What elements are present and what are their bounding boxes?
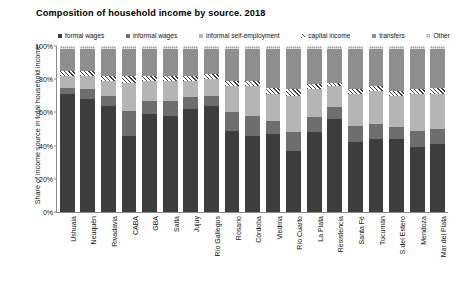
- x-axis-tick-label: Resistencia: [337, 216, 344, 252]
- bar-segment: [101, 106, 116, 212]
- x-axis-tick-label: CABA: [132, 216, 139, 235]
- bar-segment: [163, 116, 178, 212]
- y-axis-tick-mark: [54, 79, 57, 80]
- bar-segment: [286, 96, 301, 133]
- bar-column[interactable]: [307, 46, 322, 212]
- legend-item[interactable]: formal wages: [58, 33, 104, 40]
- bar-stack: [80, 46, 95, 212]
- bar-stack: [410, 46, 425, 212]
- bar-segment: [225, 131, 240, 212]
- bar-column[interactable]: [80, 46, 95, 212]
- bar-column[interactable]: [101, 46, 116, 212]
- bar-column[interactable]: [389, 46, 404, 212]
- legend-swatch-icon: [58, 34, 62, 38]
- bar-segment: [307, 117, 322, 132]
- legend-item[interactable]: Other: [426, 33, 450, 40]
- bar-column[interactable]: [410, 46, 425, 212]
- bar-segment: [101, 49, 116, 76]
- bar-segment: [430, 129, 445, 144]
- bar-segment: [430, 49, 445, 87]
- legend-item[interactable]: informal self-employment: [199, 33, 280, 40]
- bar-column[interactable]: [245, 46, 260, 212]
- bar-segment: [348, 49, 363, 89]
- bar-segment: [80, 89, 95, 99]
- bar-column[interactable]: [183, 46, 198, 212]
- bar-segment: [142, 114, 157, 212]
- bar-segment: [60, 94, 75, 212]
- y-axis-tick-mark: [54, 145, 57, 146]
- legend-item[interactable]: transfers: [372, 33, 405, 40]
- bar-segment: [266, 94, 281, 121]
- bar-segment: [266, 134, 281, 212]
- bar-stack: [389, 46, 404, 212]
- bar-column[interactable]: [430, 46, 445, 212]
- x-axis-tick-label: Mar del Plata: [440, 216, 447, 257]
- bar-segment: [142, 81, 157, 101]
- x-axis-tick-label: GBA: [152, 216, 159, 231]
- y-axis-tick-mark: [54, 112, 57, 113]
- x-axis-tick-label: Rivadavia: [111, 216, 118, 247]
- bar-segment: [266, 121, 281, 134]
- bar-column[interactable]: [266, 46, 281, 212]
- bar-column[interactable]: [142, 46, 157, 212]
- bar-segment: [327, 107, 342, 119]
- bar-column[interactable]: [369, 46, 384, 212]
- bar-column[interactable]: [327, 46, 342, 212]
- legend-label: transfers: [379, 33, 405, 40]
- bar-column[interactable]: [286, 46, 301, 212]
- y-axis-title: Share of income source in total househol…: [33, 25, 42, 225]
- bar-stack: [266, 46, 281, 212]
- bar-segment: [183, 49, 198, 76]
- bar-stack: [430, 46, 445, 212]
- legend-swatch-icon: [372, 34, 376, 38]
- bar-segment: [430, 144, 445, 212]
- bar-segment: [122, 136, 137, 212]
- bar-stack: [163, 46, 178, 212]
- bar-segment: [163, 101, 178, 116]
- bar-segment: [122, 111, 137, 136]
- bar-segment: [245, 86, 260, 116]
- bar-segment: [183, 97, 198, 109]
- chart-title: Composition of household income by sourc…: [36, 8, 266, 18]
- bar-segment: [389, 139, 404, 212]
- bar-segment: [225, 86, 240, 113]
- x-axis-tick-label: Río Gallegos: [214, 216, 221, 256]
- y-axis-tick-mark: [54, 212, 57, 213]
- x-axis-tick-label: Santa Fé: [358, 216, 365, 244]
- bar-segment: [348, 94, 363, 126]
- bar-segment: [122, 49, 137, 76]
- bar-stack: [101, 46, 116, 212]
- bar-column[interactable]: [225, 46, 240, 212]
- bar-column[interactable]: [204, 46, 219, 212]
- bar-stack: [183, 46, 198, 212]
- legend-item[interactable]: informal wages: [126, 33, 177, 40]
- legend-label: Other: [433, 33, 450, 40]
- bar-segment: [430, 88, 445, 95]
- chart-legend: formal wagesinformal wagesinformal self-…: [58, 30, 450, 42]
- bar-segment: [286, 89, 301, 96]
- legend-swatch-icon: [199, 34, 203, 38]
- legend-label: informal self-employment: [206, 33, 280, 40]
- x-axis-tick-label: Mendoza: [420, 216, 427, 245]
- bar-column[interactable]: [122, 46, 137, 212]
- bar-segment: [101, 96, 116, 106]
- bar-column[interactable]: [60, 46, 75, 212]
- bar-segment: [245, 136, 260, 212]
- bar-segment: [101, 81, 116, 96]
- y-axis-tick-label: 40%: [39, 142, 53, 149]
- bar-segment: [142, 49, 157, 76]
- bar-column[interactable]: [163, 46, 178, 212]
- bar-stack: [225, 46, 240, 212]
- y-axis-tick-label: 0%: [43, 209, 53, 216]
- bar-segment: [225, 112, 240, 130]
- bar-segment: [307, 132, 322, 212]
- bar-segment: [122, 76, 137, 83]
- y-axis-tick-label: 100%: [35, 43, 53, 50]
- bar-stack: [245, 46, 260, 212]
- bar-segment: [410, 94, 425, 131]
- y-axis-tick-mark: [54, 178, 57, 179]
- bar-segment: [410, 49, 425, 89]
- legend-item[interactable]: capital income: [301, 33, 350, 40]
- bar-column[interactable]: [348, 46, 363, 212]
- bar-segment: [163, 81, 178, 101]
